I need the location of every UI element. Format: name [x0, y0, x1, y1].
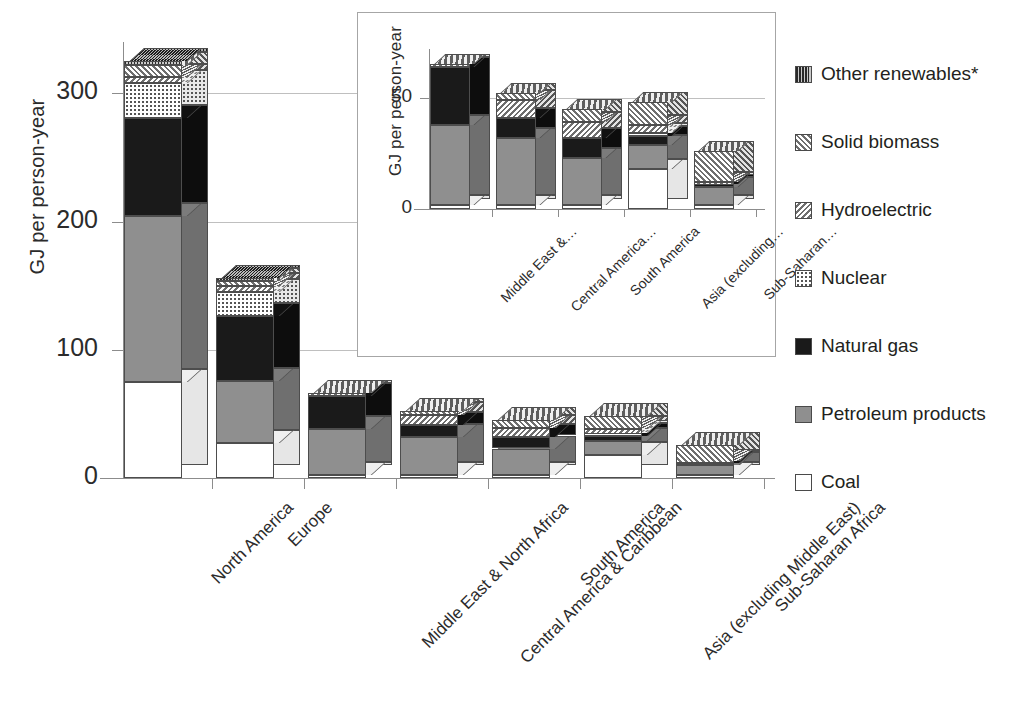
bar-segment-petroleum [216, 381, 274, 444]
bar-segment-coal [496, 205, 536, 209]
y-tick-label: 100 [18, 333, 98, 362]
bar-segment-coal [694, 205, 734, 209]
bar-segment-biomass [584, 416, 642, 429]
legend-swatch-coal-icon [795, 474, 812, 491]
legend-item-gas[interactable]: Natural gas [795, 312, 1030, 380]
bar-segment-petroleum [562, 158, 602, 205]
legend-item-other[interactable]: Other renewables* [795, 40, 1030, 108]
inset-x-tick-mark [624, 209, 625, 217]
y-tick-label: 0 [18, 461, 98, 490]
chart-root: GJ per person-year 0100200300 North Amer… [0, 0, 1030, 724]
bar-segment-biomass [628, 102, 668, 124]
bar-segment-gas [628, 136, 668, 145]
legend-swatch-biomass-icon [795, 134, 812, 151]
bar-segment-coal [400, 475, 458, 478]
legend-label: Solid biomass [821, 131, 939, 153]
bar-segment-petroleum [492, 449, 550, 476]
bar-segment-coal [124, 382, 182, 478]
bar-segment-petroleum [676, 465, 734, 475]
legend-item-nuclear[interactable]: Nuclear [795, 244, 1030, 312]
bar-segment-coal [492, 475, 550, 478]
legend-item-biomass[interactable]: Solid biomass [795, 108, 1030, 176]
bar-segment-hydro [492, 428, 550, 437]
main-y-axis-label: GJ per person-year [26, 87, 49, 287]
inset-chart: GJ per person-year 050 Middle East &…Cen… [357, 12, 776, 357]
bar-segment-nuclear [216, 292, 274, 316]
legend-swatch-nuclear-icon [795, 270, 812, 287]
x-tick-mark [672, 478, 673, 489]
x-axis-label: North America [208, 498, 298, 588]
bar-segment-hydro [584, 429, 642, 434]
x-tick-mark [304, 478, 305, 489]
x-tick-mark [580, 478, 581, 489]
inset-x-axis-label: Middle East &… [497, 223, 579, 305]
bar-segment-hydro [400, 415, 458, 425]
bar-segment-biomass [124, 65, 182, 77]
bar-segment-hydro [694, 182, 734, 185]
legend-swatch-petroleum-icon [795, 406, 812, 423]
bar-segment-coal [628, 169, 668, 209]
y-tick-label: 200 [18, 205, 98, 234]
legend-swatch-gas-icon [795, 338, 812, 355]
bar-segment-coal [584, 455, 642, 478]
bar-segment-gas [694, 184, 734, 187]
bar-segment-other [124, 61, 182, 65]
x-tick-mark [488, 478, 489, 489]
x-tick-mark [396, 478, 397, 489]
bar-segment-biomass [216, 281, 274, 286]
y-tick-label: 300 [18, 76, 98, 105]
bar-segment-gas [308, 396, 366, 429]
bar-segment-biomass [496, 93, 536, 100]
bar-segment-petroleum [308, 429, 366, 475]
bar-segment-coal [308, 475, 366, 478]
legend-item-coal[interactable]: Coal [795, 448, 1030, 516]
bar-segment-biomass [562, 109, 602, 122]
bar-segment-gas [216, 316, 274, 380]
bar-segment-other [216, 278, 274, 281]
bar-segment-gas [496, 118, 536, 138]
x-axis-label: Asia (excluding Middle East) [699, 498, 865, 664]
bar-segment-gas [124, 118, 182, 217]
legend-label: Coal [821, 471, 860, 493]
legend: Other renewables*Solid biomassHydroelect… [795, 40, 1030, 516]
legend-label: Petroleum products [821, 403, 986, 425]
inset-x-tick-mark [492, 209, 493, 217]
inset-x-tick-mark [558, 209, 559, 217]
x-axis-line [100, 478, 775, 479]
bar-segment-petroleum [584, 441, 642, 455]
bar-segment-gas [562, 138, 602, 158]
bar-segment-gas [492, 437, 550, 449]
legend-item-petroleum[interactable]: Petroleum products [795, 380, 1030, 448]
bar-segment-hydro [496, 100, 536, 118]
bar-segment-biomass [694, 151, 734, 182]
bar-segment-nuclear [628, 133, 668, 136]
bar-segment-biomass [308, 393, 366, 396]
bar-segment-petroleum [694, 187, 734, 205]
legend-item-hydro[interactable]: Hydroelectric [795, 176, 1030, 244]
bar-segment-petroleum [124, 216, 182, 381]
bar-segment-petroleum [628, 145, 668, 169]
legend-label: Other renewables* [821, 63, 978, 85]
legend-swatch-hydro-icon [795, 202, 812, 219]
bar-segment-biomass [676, 445, 734, 463]
inset-y-tick-label: 50 [332, 85, 412, 107]
bar-segment-coal [216, 443, 274, 478]
bar-segment-coal [430, 205, 470, 209]
bar-segment-gas [400, 425, 458, 437]
bar-segment-gas [430, 67, 470, 125]
bar-segment-petroleum [400, 437, 458, 475]
bar-segment-hydro [628, 125, 668, 134]
inset-y-tick-mark [420, 209, 430, 210]
y-tick-mark [112, 478, 124, 479]
bar-segment-biomass [492, 420, 550, 428]
legend-label: Hydroelectric [821, 199, 932, 221]
bar-segment-coal [676, 475, 734, 478]
x-axis-label: South America [576, 498, 668, 590]
inset-x-tick-mark [690, 209, 691, 217]
bar-segment-biomass [400, 411, 458, 415]
inset-x-axis-line [414, 209, 765, 210]
legend-label: Nuclear [821, 267, 886, 289]
bar-segment-petroleum [496, 138, 536, 205]
bar-segment-coal [562, 205, 602, 209]
bar-segment-petroleum [430, 125, 470, 205]
